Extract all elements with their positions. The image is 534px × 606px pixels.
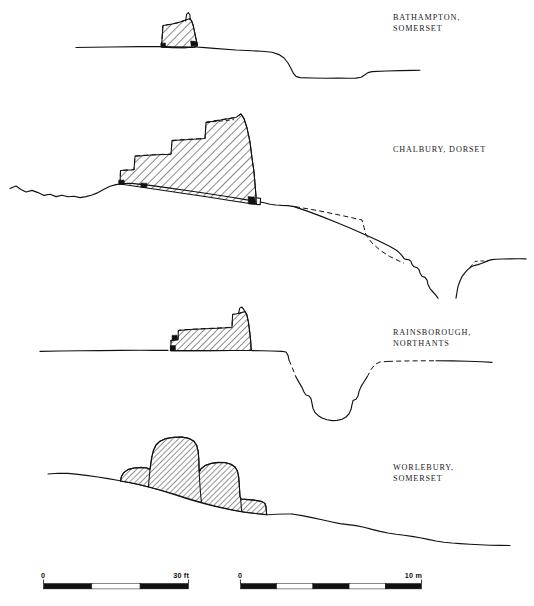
scale-feet-end-label: 30 ft bbox=[173, 571, 189, 580]
bathampton-label-line1: BATHAMPTON, bbox=[393, 13, 460, 22]
cross-section-figure: BATHAMPTON, SOMERSET bbox=[0, 0, 534, 606]
scale-metres-segment-1 bbox=[241, 584, 277, 589]
rainsborough-stone-block-lower bbox=[170, 346, 175, 351]
bathampton-stone-block-left bbox=[161, 43, 166, 47]
scale-metres-segment-3 bbox=[313, 584, 349, 589]
scale-feet-segment-1 bbox=[44, 584, 92, 589]
bathampton-stone-block-right bbox=[191, 41, 198, 46]
scale-feet-segment-3 bbox=[140, 584, 188, 589]
rainsborough-label-line2: NORTHANTS bbox=[393, 339, 450, 348]
scale-metres-start-label: 0 bbox=[238, 571, 242, 580]
chalbury-stone-block-right bbox=[248, 197, 256, 205]
worlebury-label-line1: WORLEBURY, bbox=[393, 463, 454, 472]
worlebury-label-line2: SOMERSET bbox=[393, 474, 443, 483]
bathampton-label-line2: SOMERSET bbox=[393, 24, 443, 33]
scale-metres-segment-2 bbox=[277, 584, 313, 589]
chalbury-stone-void bbox=[256, 198, 261, 205]
chalbury-label-line1: CHALBURY, DORSET bbox=[393, 145, 486, 154]
figure-container: BATHAMPTON, SOMERSET bbox=[0, 0, 534, 606]
chalbury-stone-block-left bbox=[119, 180, 125, 185]
rainsborough-label-line1: RAINSBOROUGH, bbox=[393, 328, 471, 337]
rainsborough-stone-block-upper bbox=[172, 335, 177, 340]
scale-metres-end-label: 10 m bbox=[405, 571, 422, 580]
scale-feet-segment-2 bbox=[92, 584, 140, 589]
scale-feet-start-label: 0 bbox=[41, 571, 45, 580]
scale-metres-segment-4 bbox=[349, 584, 385, 589]
scale-metres-segment-5 bbox=[385, 584, 421, 589]
chalbury-stone-block-mid bbox=[141, 183, 147, 188]
